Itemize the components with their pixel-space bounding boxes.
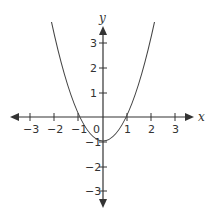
x-tick-label: −3: [23, 123, 39, 136]
x-tick-label: 2: [148, 123, 155, 136]
y-axis-down-arrow-icon: [99, 199, 107, 208]
x-tick-label: 3: [172, 123, 179, 136]
x-tick-label: −1: [71, 123, 87, 136]
y-tick-label: 3: [90, 37, 97, 50]
y-tick-label: −1: [85, 136, 101, 149]
y-tick-label: −3: [85, 185, 101, 198]
coordinate-plane: x y −3 −2 −1 0 1 2 3 3 2 1 −1 −2 −3: [0, 0, 212, 218]
y-tick-label: 2: [90, 62, 97, 75]
x-axis: [10, 113, 194, 121]
origin-label: 0: [93, 123, 100, 136]
y-tick-label: 1: [90, 87, 97, 100]
y-axis-label: y: [98, 11, 106, 25]
x-axis-label: x: [198, 110, 205, 124]
x-axis-left-arrow-icon: [10, 113, 19, 121]
x-tick-label: 1: [124, 123, 131, 136]
y-tick-label: −2: [85, 161, 101, 174]
x-tick-label: −2: [47, 123, 63, 136]
y-axis-up-arrow-icon: [99, 26, 107, 35]
x-axis-right-arrow-icon: [185, 113, 194, 121]
